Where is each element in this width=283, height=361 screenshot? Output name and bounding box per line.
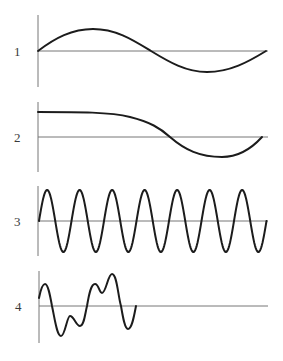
waveform-figure: 1 2 3 4 <box>0 0 283 361</box>
panel-label-1: 1 <box>14 44 21 59</box>
panel-4: 4 <box>15 271 268 343</box>
panel-1: 1 <box>14 15 268 87</box>
panel-label-3: 3 <box>14 214 21 229</box>
panel-label-4: 4 <box>15 299 22 314</box>
panel-2-wave <box>38 112 262 157</box>
panel-3: 3 <box>14 186 268 256</box>
panel-2: 2 <box>14 102 268 172</box>
panel-label-2: 2 <box>14 130 21 145</box>
panel-4-wave <box>39 274 136 336</box>
